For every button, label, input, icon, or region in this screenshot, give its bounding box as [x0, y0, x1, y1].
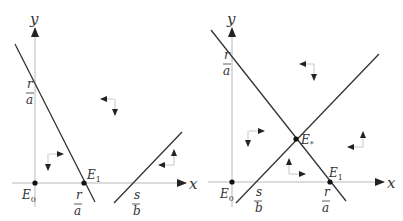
equilibrium-e0: [229, 179, 234, 184]
right-panel: y x r a E0 E* E1 s b r a: [208, 10, 396, 215]
svg-text:s: s: [256, 185, 262, 199]
e0-label: E0: [21, 188, 36, 204]
x-intercept-r-a-label: r a: [74, 188, 83, 218]
svg-text:r: r: [76, 188, 83, 202]
x-axis-label: x: [189, 175, 198, 193]
phase-plane-figure: y x r a E0 E1 r a s b: [0, 0, 403, 221]
direction-arrow-right: [348, 132, 363, 147]
svg-text:a: a: [26, 93, 33, 107]
direction-arrow-top: [300, 64, 314, 80]
x-intercept-s-b-label: s b: [132, 188, 141, 218]
equilibrium-e-star: [293, 136, 298, 141]
nullcline-predator: [114, 132, 182, 203]
e-star-label: E*: [300, 133, 314, 149]
svg-text:s: s: [134, 188, 140, 202]
left-panel: y x r a E0 E1 r a s b: [12, 10, 198, 218]
svg-text:b: b: [255, 201, 263, 215]
direction-arrow-bottom: [289, 159, 305, 174]
y-intercept-label: r a: [223, 48, 231, 78]
svg-text:a: a: [74, 204, 81, 218]
nullcline-predator: [236, 54, 379, 203]
svg-text:a: a: [223, 64, 230, 78]
x-axis-label: x: [387, 174, 396, 192]
svg-text:b: b: [133, 204, 141, 218]
y-intercept-label: r a: [26, 77, 34, 107]
direction-arrow-lower-left: [48, 154, 63, 170]
nullcline-prey: [15, 44, 95, 202]
y-axis-label: y: [29, 10, 39, 28]
equilibrium-e1: [81, 180, 86, 185]
e1-label: E1: [86, 168, 101, 184]
x-intercept-r-a-label: r a: [322, 185, 331, 215]
direction-arrow-right: [159, 150, 174, 165]
x-intercept-s-b-label: s b: [254, 185, 263, 215]
equilibrium-e0: [32, 180, 37, 185]
svg-text:r: r: [324, 185, 331, 199]
nullcline-prey: [211, 30, 346, 201]
direction-arrow-upper: [101, 99, 115, 115]
equilibrium-e1: [327, 179, 332, 184]
direction-arrow-left: [248, 131, 264, 146]
svg-text:a: a: [322, 201, 329, 215]
e1-label: E1: [328, 166, 343, 182]
y-axis-label: y: [226, 10, 236, 28]
